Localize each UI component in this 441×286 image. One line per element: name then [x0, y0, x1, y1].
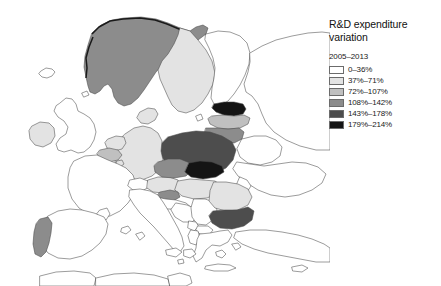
map-svg	[0, 0, 330, 286]
legend-item[interactable]: 143%–178%	[329, 108, 437, 119]
country-spain	[40, 209, 145, 259]
country-united-kingdom	[54, 98, 96, 153]
legend-item-label: 37%–71%	[348, 76, 383, 85]
legend-swatch-icon	[329, 88, 344, 96]
legend-item-label: 0–36%	[348, 65, 372, 74]
island-faroe	[82, 91, 89, 97]
country-belarus	[237, 136, 282, 165]
legend-item-label: 179%–214%	[348, 120, 392, 129]
country-russia	[244, 32, 330, 150]
legend-item-label: 108%–142%	[348, 98, 392, 107]
legend-swatch-icon	[329, 110, 344, 118]
country-tunisia	[168, 273, 192, 286]
island-gotland	[196, 114, 203, 121]
country-iceland	[39, 68, 55, 78]
legend-item[interactable]: 108%–142%	[329, 97, 437, 108]
legend-title: R&D expenditurevariation	[329, 18, 437, 44]
country-algeria	[96, 273, 170, 286]
legend-item[interactable]: 37%–71%	[329, 75, 437, 86]
legend-item-label: 143%–178%	[348, 109, 392, 118]
country-ireland	[29, 122, 55, 147]
europe-choropleth-map	[0, 0, 330, 286]
legend-item[interactable]: 0–36%	[329, 64, 437, 75]
country-morocco	[40, 271, 96, 286]
legend-rows: 0–36% 37%–71% 72%–107% 108%–142% 143%–17…	[329, 64, 437, 130]
map-legend: R&D expenditurevariation 2005–2013 0–36%…	[329, 18, 437, 130]
legend-swatch-icon	[329, 121, 344, 129]
legend-item-label: 72%–107%	[348, 87, 388, 96]
legend-item[interactable]: 72%–107%	[329, 86, 437, 97]
legend-swatch-icon	[329, 77, 344, 85]
legend-period: 2005–2013	[329, 52, 437, 61]
legend-title-line2: variation	[329, 31, 368, 43]
legend-item[interactable]: 179%–214%	[329, 119, 437, 130]
country-cyprus	[292, 265, 308, 272]
island-malta	[178, 259, 184, 264]
country-latvia	[208, 115, 250, 129]
country-denmark	[137, 108, 158, 124]
island-crete	[205, 264, 236, 271]
legend-swatch-icon	[329, 66, 344, 74]
figure-root: R&D expenditurevariation 2005–2013 0–36%…	[0, 0, 441, 286]
country-estonia	[212, 102, 246, 116]
country-turkey	[234, 230, 330, 262]
legend-swatch-icon	[329, 99, 344, 107]
legend-title-line1: R&D expenditure	[329, 18, 407, 30]
